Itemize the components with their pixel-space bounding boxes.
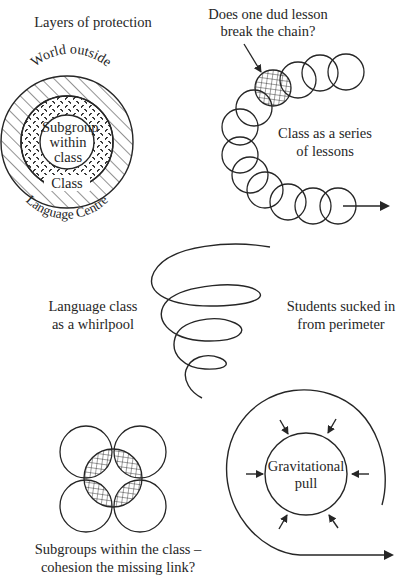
caption-line: Class as a series xyxy=(270,124,380,142)
lesson-circle xyxy=(222,137,258,173)
label-line: pull xyxy=(262,475,350,492)
caption-line: cohesion the missing link? xyxy=(28,558,208,576)
caption-line: as a whirlpool xyxy=(38,315,148,333)
inward-arrow xyxy=(280,420,288,434)
label-world-outside: World outside xyxy=(28,42,115,70)
inward-arrow xyxy=(279,515,287,529)
caption-line: Students sucked in xyxy=(276,297,406,315)
lesson-circle xyxy=(302,55,338,91)
core-label: Subgroup within class xyxy=(42,120,94,165)
caption-line: Language class xyxy=(38,297,148,315)
dud-pointer-arrow xyxy=(244,44,261,72)
core-label-line: Subgroup xyxy=(42,120,94,135)
caption-line: Subgroups within the class – xyxy=(28,540,208,558)
whirlpool-caption: Language class as a whirlpool xyxy=(38,297,148,333)
lesson-circle xyxy=(222,109,258,145)
inward-arrow xyxy=(329,515,338,528)
core-label-line: class xyxy=(42,150,94,165)
dud-lesson-circle xyxy=(255,70,291,106)
gravitational-pull-label: Gravitational pull xyxy=(262,458,350,492)
inward-arrow xyxy=(328,419,336,433)
dud-lesson-question: Does one dud lesson break the chain? xyxy=(193,6,343,40)
chain-caption: Class as a series of lessons xyxy=(270,124,380,160)
question-line: break the chain? xyxy=(193,23,343,40)
diagram-canvas: World outside Language Centre xyxy=(0,0,412,582)
caption-line: from perimeter xyxy=(276,315,406,333)
layers-title: Layers of protection xyxy=(18,14,168,30)
class-ring-label: Class xyxy=(44,175,90,191)
lesson-circle xyxy=(247,172,283,208)
question-line: Does one dud lesson xyxy=(193,6,343,23)
class-center-circle xyxy=(84,449,142,507)
core-label-line: within xyxy=(42,135,94,150)
lesson-circle xyxy=(232,157,268,193)
subgroups-figure xyxy=(60,426,166,532)
subgroups-caption: Subgroups within the class – cohesion th… xyxy=(28,540,208,576)
whirlpool-spiral xyxy=(151,244,270,398)
lesson-circle xyxy=(270,184,306,220)
label-line: Gravitational xyxy=(262,458,350,475)
perimeter-caption: Students sucked in from perimeter xyxy=(276,297,406,333)
caption-line: of lessons xyxy=(270,142,380,160)
